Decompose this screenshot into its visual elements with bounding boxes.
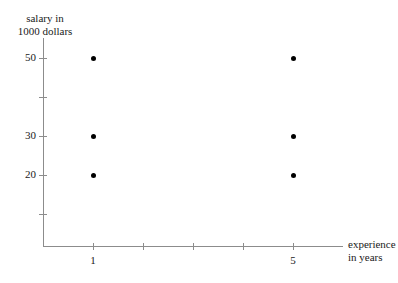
data-point <box>291 173 296 178</box>
x-axis-tick-label: 1 <box>78 254 108 266</box>
y-axis-tick <box>39 58 47 59</box>
y-axis-line <box>43 38 44 247</box>
y-axis-tick <box>39 175 47 176</box>
x-axis-tick <box>293 243 294 250</box>
y-axis-tick <box>39 136 47 137</box>
y-axis-tick-label: 20 <box>6 169 36 180</box>
y-axis-tick <box>39 214 47 215</box>
y-axis-title: salary in 1000 dollars <box>5 12 85 38</box>
x-axis-tick <box>93 243 94 250</box>
data-point <box>291 56 296 61</box>
x-axis-tick <box>143 243 144 250</box>
x-axis-title-line-2: in years <box>348 251 398 264</box>
data-point <box>91 173 96 178</box>
y-axis-tick-label: 50 <box>6 52 36 63</box>
x-axis-tick <box>193 243 194 250</box>
y-axis-title-line-2: 1000 dollars <box>5 25 85 38</box>
x-axis-title-line-1: experience <box>348 238 398 251</box>
scatter-plot: salary in 1000 dollars experience in yea… <box>0 0 398 283</box>
y-axis-title-line-1: salary in <box>5 12 85 25</box>
x-axis-title: experience in years <box>348 238 398 264</box>
x-axis-tick-label: 5 <box>278 254 308 266</box>
data-point <box>291 134 296 139</box>
y-axis-tick <box>39 97 47 98</box>
x-axis-tick <box>243 243 244 250</box>
y-axis-tick-label: 30 <box>6 130 36 141</box>
data-point <box>91 134 96 139</box>
data-point <box>91 56 96 61</box>
